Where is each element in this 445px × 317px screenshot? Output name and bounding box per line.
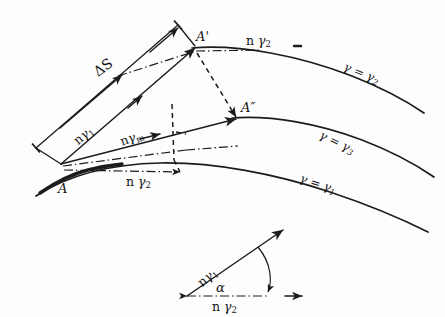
vector-label-n-gamma-2-upper: n γ2 — [246, 35, 271, 49]
gamma-glyph: γ — [258, 33, 265, 48]
dashed-connector-a1-a2 — [197, 53, 236, 117]
construction-line-upper — [118, 50, 262, 76]
point-label-a-prime: A' — [196, 30, 209, 43]
gamma-glyph: γ — [224, 299, 231, 314]
figure-canvas: A' A″ A ΔS nγ1 nγm n γ2 n γ2 γ = γ2 γ = … — [0, 0, 445, 317]
n-glyph: n — [246, 33, 254, 48]
gamma-curve-bottom — [36, 163, 428, 232]
point-label-a-double-prime: A″ — [241, 101, 255, 114]
equals-sign: = — [327, 133, 342, 150]
equals-sign: = — [309, 175, 323, 191]
vector-label-n-gamma-2-lower: n γ2 — [126, 176, 151, 190]
n-glyph: n — [126, 174, 134, 189]
inset-label-alpha: α — [216, 281, 225, 294]
gamma-index: 2 — [232, 305, 237, 315]
gamma-glyph: γ — [138, 174, 145, 189]
dashed-drop-line — [172, 104, 180, 172]
inset-label-n-gamma-2: n γ2 — [212, 301, 237, 315]
point-label-a: A — [58, 182, 67, 195]
delta-s-dimension — [36, 25, 178, 148]
gamma-index: 2 — [146, 180, 151, 190]
equals-sign: = — [352, 64, 367, 81]
n-glyph: n — [212, 299, 220, 314]
diagram-svg — [0, 0, 445, 317]
dimension-connectors — [36, 25, 195, 164]
gamma-index: 2 — [266, 39, 271, 49]
